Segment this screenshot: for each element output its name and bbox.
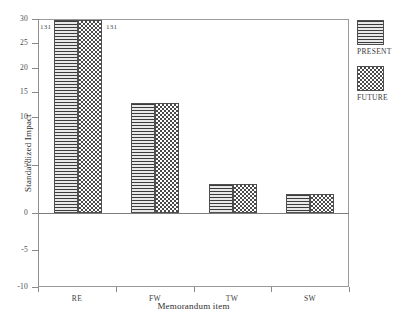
y-tick-mark [32, 19, 39, 20]
legend-label-present: PRESENT [357, 47, 405, 57]
y-tick-mark [32, 43, 39, 44]
y-tick-mark [32, 250, 39, 251]
legend-swatch-future [357, 66, 384, 91]
bar-fw-future [155, 103, 179, 213]
y-tick-mark [32, 68, 39, 69]
bar-tw-future [233, 184, 257, 213]
x-tick-mark [194, 287, 195, 292]
y-axis-line [38, 19, 39, 287]
bar-fw-present [131, 103, 155, 213]
x-axis-title: Memorandum item [38, 301, 349, 312]
bar-re-present [54, 20, 78, 213]
y-tick-label-minus10: -10 [0, 283, 28, 291]
y-tick-label-20: 20 [0, 64, 28, 72]
x-tick-mark [116, 287, 117, 292]
y-tick-label-30: 30 [0, 15, 28, 23]
legend-swatch-present [357, 20, 384, 45]
y-tick-label-25: 25 [0, 39, 28, 47]
bar-sw-future [310, 194, 334, 213]
y-tick-mark [32, 117, 39, 118]
bar-chart-figure: 30 25 20 15 10 5 0 -5 -10 RE FW TW SW Me… [0, 0, 409, 316]
bar-sw-present [286, 194, 310, 213]
bar-value-label-re-present: 131 [40, 23, 51, 31]
bar-re-future [78, 20, 102, 213]
x-tick-mark [271, 287, 272, 292]
chart-legend: PRESENT FUTURE [357, 20, 405, 112]
legend-label-future: FUTURE [357, 93, 405, 103]
y-tick-mark [32, 92, 39, 93]
x-tick-mark [349, 287, 350, 292]
y-tick-mark [32, 165, 39, 166]
y-tick-label-minus5: -5 [0, 246, 28, 254]
y-axis-title: Standardized Impact [23, 73, 33, 233]
y-tick-mark [32, 213, 39, 214]
bar-tw-present [209, 184, 233, 213]
zero-baseline [38, 213, 349, 214]
bar-value-label-re-future: 131 [106, 23, 117, 31]
x-tick-mark [38, 287, 39, 292]
